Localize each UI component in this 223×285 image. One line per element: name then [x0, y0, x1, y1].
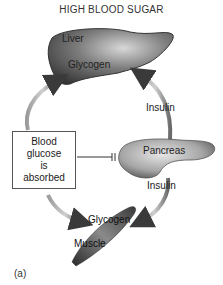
pancreas-label: Pancreas	[143, 145, 185, 156]
box-line-1: Blood	[31, 136, 57, 148]
figure-label: (a)	[14, 268, 26, 279]
muscle-glycogen-label: Glycogen	[88, 214, 130, 225]
box-line-3: is	[40, 160, 47, 172]
arrow-to-muscle	[48, 195, 82, 222]
box-line-2: glucose	[27, 148, 61, 160]
insulin-label-lower: Insulin	[147, 180, 176, 191]
arrow-to-liver	[27, 80, 58, 130]
box-line-4: absorbed	[23, 172, 65, 184]
blood-glucose-absorbed-box: Blood glucose is absorbed	[12, 131, 76, 189]
liver-label: Liver	[62, 33, 84, 44]
muscle-label: Muscle	[74, 238, 106, 249]
liver-glycogen-label: Glycogen	[68, 59, 110, 70]
insulin-label-upper: Insulin	[146, 102, 175, 113]
